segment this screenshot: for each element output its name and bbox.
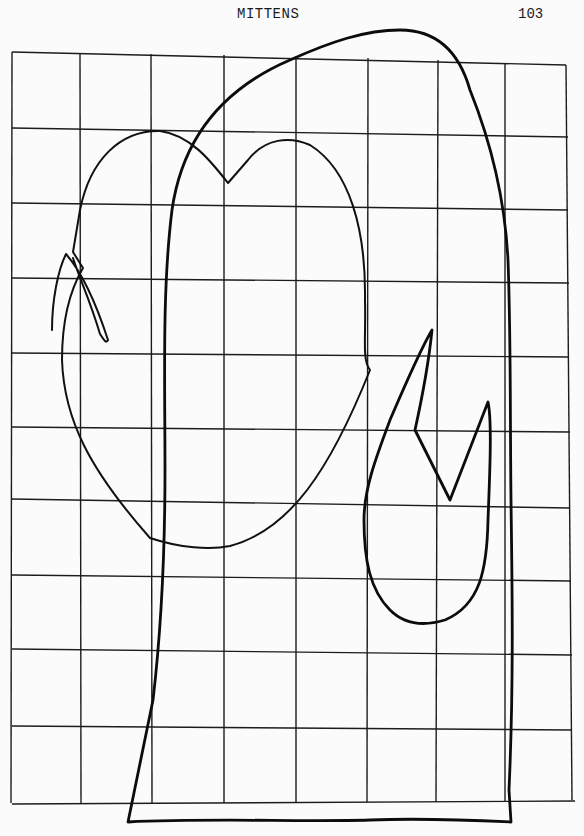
grid-line-horizontal bbox=[12, 575, 571, 581]
grid-line-horizontal bbox=[12, 726, 572, 730]
mitten-pattern-diagram bbox=[0, 0, 584, 836]
grid-line-horizontal bbox=[12, 801, 575, 804]
grid-line-horizontal bbox=[12, 649, 572, 655]
grid-line-vertical bbox=[11, 52, 12, 803]
grid-line-horizontal bbox=[12, 278, 569, 283]
grid-line-horizontal bbox=[12, 353, 569, 357]
grid-line-horizontal bbox=[12, 499, 570, 508]
grid-line-horizontal bbox=[12, 427, 570, 432]
large-mitten-outline bbox=[128, 30, 512, 822]
grid-line-horizontal bbox=[12, 203, 568, 210]
grid-line-horizontal bbox=[12, 52, 566, 65]
